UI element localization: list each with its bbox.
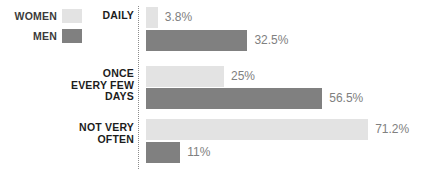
bar-row-women-not-very-often: 71.2% bbox=[146, 119, 409, 140]
bar-value-women-once-every-few-days: 25% bbox=[231, 66, 255, 87]
bar-chart: WOMEN MEN DAILY 3.8% 32.5% ONCE EVERY FE… bbox=[0, 0, 422, 173]
bar-value-men-once-every-few-days: 56.5% bbox=[329, 88, 363, 109]
category-label-once-every-few-days: ONCE EVERY FEW DAYS bbox=[24, 68, 134, 103]
bar-women-once-every-few-days bbox=[146, 66, 224, 87]
bar-men-not-very-often bbox=[146, 142, 180, 163]
bar-women-not-very-often bbox=[146, 119, 368, 140]
bar-row-women-daily: 3.8% bbox=[146, 7, 192, 28]
bar-row-women-once-every-few-days: 25% bbox=[146, 66, 255, 87]
bar-men-once-every-few-days bbox=[146, 88, 322, 109]
category-label-not-very-often: NOT VERY OFTEN bbox=[24, 122, 134, 145]
baseline-axis bbox=[138, 6, 139, 169]
bar-value-women-daily: 3.8% bbox=[165, 7, 192, 28]
bar-value-men-not-very-often: 11% bbox=[187, 142, 210, 163]
bar-value-women-not-very-often: 71.2% bbox=[375, 119, 409, 140]
bar-row-men-not-very-often: 11% bbox=[146, 142, 210, 163]
plot-area: DAILY 3.8% 32.5% ONCE EVERY FEW DAYS 25%… bbox=[0, 0, 422, 173]
bar-row-men-once-every-few-days: 56.5% bbox=[146, 88, 363, 109]
bar-men-daily bbox=[146, 30, 247, 51]
bar-value-men-daily: 32.5% bbox=[254, 30, 288, 51]
category-label-daily: DAILY bbox=[24, 10, 134, 22]
bar-row-men-daily: 32.5% bbox=[146, 30, 288, 51]
bar-women-daily bbox=[146, 7, 158, 28]
